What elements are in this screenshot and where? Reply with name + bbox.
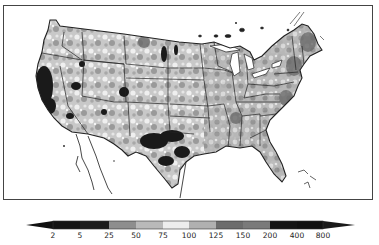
colorbar — [0, 214, 379, 230]
colorbar-extend-high — [323, 221, 355, 229]
tick-label: 75 — [158, 231, 168, 240]
colorbar-segment — [243, 221, 270, 229]
colorbar-legend: 2 5 25 50 75 100 125 150 200 400 800 — [0, 214, 379, 245]
tick-label: 200 — [263, 231, 277, 240]
colorbar-segment — [216, 221, 243, 229]
colorbar-segment — [270, 221, 297, 229]
tick-label: 25 — [104, 231, 114, 240]
tick-label: 400 — [290, 231, 304, 240]
tick-label: 2 — [51, 231, 56, 240]
us-map — [4, 6, 373, 200]
tick-label: 5 — [78, 231, 83, 240]
tick-label: 125 — [209, 231, 223, 240]
tick-label: 50 — [131, 231, 141, 240]
us-land — [4, 6, 373, 200]
colorbar-segment — [136, 221, 163, 229]
tick-label: 150 — [236, 231, 250, 240]
tick-label: 100 — [182, 231, 196, 240]
colorbar-segment — [163, 221, 189, 229]
bahamas-fragments — [298, 170, 316, 188]
map-frame — [3, 5, 373, 200]
colorbar-segment — [109, 221, 136, 229]
colorbar-segment — [297, 221, 323, 229]
colorbar-extend-low — [26, 221, 53, 229]
colorbar-segment — [53, 221, 80, 229]
colorbar-segment — [80, 221, 109, 229]
colorbar-segment — [189, 221, 216, 229]
tick-label: 800 — [316, 231, 330, 240]
